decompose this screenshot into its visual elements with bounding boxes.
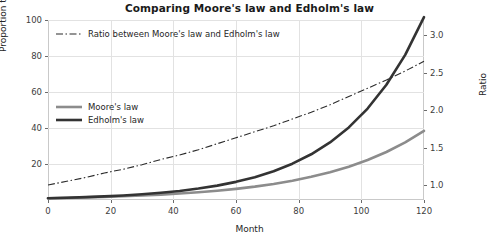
- x-axis-tick: [361, 200, 362, 203]
- x-axis-tick-label: 40: [157, 206, 189, 216]
- y-axis-tick: [45, 128, 48, 129]
- legend-label-edholms-law: Edholm's law: [88, 115, 144, 125]
- secondary-y-axis-tick: [424, 73, 427, 74]
- y-axis-tick-label: 20: [14, 159, 42, 169]
- legend-item-moores-law: Moore's law: [56, 100, 144, 113]
- x-axis-tick: [111, 200, 112, 203]
- secondary-y-axis-tick-label: 1.5: [430, 143, 460, 153]
- secondary-y-axis-tick-label: 2.0: [430, 105, 460, 115]
- y-axis-tick-label: 60: [14, 87, 42, 97]
- legend-swatch-moores-law-line: [56, 102, 82, 112]
- secondary-y-axis-tick-label: 1.0: [430, 180, 460, 190]
- y-axis-tick: [45, 92, 48, 93]
- legend-item-ratio: Ratio between Moore's law and Edholm's l…: [56, 27, 280, 40]
- x-axis-tick: [299, 200, 300, 203]
- x-axis-label: Month: [0, 224, 499, 234]
- y-axis-tick: [45, 20, 48, 21]
- x-axis-tick-label: 60: [220, 206, 252, 216]
- legend-ratio: Ratio between Moore's law and Edholm's l…: [56, 27, 280, 40]
- x-axis-tick-label: 120: [408, 206, 440, 216]
- secondary-y-axis-tick-label: 2.5: [430, 68, 460, 78]
- chart-figure: Comparing Moore's law and Edholm's law P…: [0, 0, 499, 246]
- legend-laws: Moore's law Edholm's law: [56, 100, 144, 126]
- secondary-y-axis-tick: [424, 185, 427, 186]
- legend-swatch-ratio-line: [56, 29, 82, 39]
- y-axis-tick-label: 40: [14, 123, 42, 133]
- chart-title: Comparing Moore's law and Edholm's law: [0, 2, 499, 14]
- legend-item-edholms-law: Edholm's law: [56, 113, 144, 126]
- secondary-y-axis-tick: [424, 35, 427, 36]
- legend-label-moores-law: Moore's law: [88, 102, 138, 112]
- legend-label-ratio: Ratio between Moore's law and Edholm's l…: [88, 29, 280, 39]
- secondary-y-axis-tick-label: 3.0: [430, 30, 460, 40]
- x-axis-tick: [48, 200, 49, 203]
- x-axis-tick-label: 100: [345, 206, 377, 216]
- y-axis-tick: [45, 56, 48, 57]
- secondary-y-axis-tick: [424, 148, 427, 149]
- x-axis-tick: [173, 200, 174, 203]
- legend-swatch-edholms-law-line: [56, 115, 82, 125]
- x-axis-tick-label: 20: [95, 206, 127, 216]
- y-axis-tick: [45, 164, 48, 165]
- x-axis-tick-label: 0: [32, 206, 64, 216]
- y-axis-tick-label: 100: [14, 15, 42, 25]
- y-axis-label: Proportion to month 0: [0, 0, 8, 52]
- secondary-y-axis-tick: [424, 110, 427, 111]
- series-line-moores-law: [48, 131, 424, 198]
- x-axis-tick: [424, 200, 425, 203]
- secondary-y-axis-label: Ratio: [478, 73, 488, 96]
- y-axis-tick-label: 80: [14, 51, 42, 61]
- x-axis-tick-label: 80: [283, 206, 315, 216]
- x-axis-tick: [236, 200, 237, 203]
